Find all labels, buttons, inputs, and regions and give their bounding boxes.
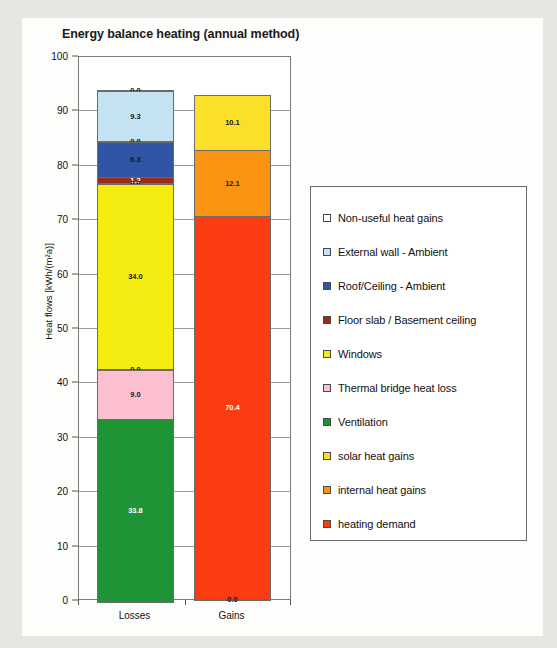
legend-label: solar heat gains [338, 450, 414, 462]
legend-label: Ventilation [338, 416, 388, 428]
y-axis-tick-label: 100 [51, 51, 68, 62]
bar-segment-value: 12.1 [225, 180, 240, 188]
legend-item[interactable]: Non-useful heat gains [323, 201, 526, 235]
y-axis-tick-label: 10 [57, 540, 68, 551]
legend-swatch-icon [323, 214, 331, 222]
bar-segment-value: 9.3 [130, 113, 140, 121]
legend-label: heating demand [338, 518, 416, 530]
legend-item[interactable]: Ventilation [323, 405, 526, 439]
chart-card: Energy balance heating (annual method) 1… [22, 18, 543, 636]
legend-label: Floor slab / Basement ceiling [338, 314, 476, 326]
y-axis-title: Heat flows [kWh/(m²a)] [43, 192, 54, 392]
legend-swatch-icon [323, 248, 331, 256]
x-axis-tick-mark [78, 600, 79, 605]
bar-segment[interactable]: 9.0 [97, 370, 174, 419]
legend-item[interactable]: Roof/Ceiling - Ambient [323, 269, 526, 303]
legend-label: External wall - Ambient [338, 246, 448, 258]
legend-item[interactable]: External wall - Ambient [323, 235, 526, 269]
legend-item[interactable]: solar heat gains [323, 439, 526, 473]
legend-swatch-icon [323, 282, 331, 290]
bar-segment[interactable]: 33.8 [97, 419, 174, 603]
bar-segment[interactable]: 12.1 [194, 150, 271, 216]
y-axis-tick-label: 70 [57, 214, 68, 225]
legend-label: Thermal bridge heat loss [338, 382, 457, 394]
legend-item[interactable]: Thermal bridge heat loss [323, 371, 526, 405]
y-axis-tick-label: 20 [57, 486, 68, 497]
bar-segment-value: 6.3 [130, 156, 140, 164]
bar-segment-value: 9.0 [130, 391, 140, 399]
bar-segment-value: 33.8 [128, 507, 143, 515]
legend-swatch-icon [323, 520, 331, 528]
bar-segment-value: 10.1 [225, 119, 240, 127]
legend-item[interactable]: internal heat gains [323, 473, 526, 507]
chart-legend: Non-useful heat gainsExternal wall - Amb… [310, 186, 527, 541]
legend-swatch-icon [323, 486, 331, 494]
page-title: Energy balance heating (annual method) [62, 27, 299, 41]
y-axis-tick-label: 50 [57, 323, 68, 334]
bar-segment-value: 34.0 [128, 273, 143, 281]
x-axis-category-label: Losses [119, 610, 151, 621]
y-axis-tick-label: 60 [57, 268, 68, 279]
bar-segment-value: 70.4 [225, 404, 240, 412]
legend-item[interactable]: heating demand [323, 507, 526, 541]
y-axis-tick-label: 90 [57, 105, 68, 116]
x-axis-tick-mark [290, 600, 291, 605]
legend-swatch-icon [323, 350, 331, 358]
bar-segment[interactable]: 10.1 [194, 95, 271, 150]
chart-page: Energy balance heating (annual method) 1… [0, 0, 557, 648]
y-axis-tick-label: 0 [62, 595, 68, 606]
bar-gains[interactable]: 10.112.170.40.0 [194, 95, 271, 599]
legend-item[interactable]: Floor slab / Basement ceiling [323, 303, 526, 337]
legend-label: Roof/Ceiling - Ambient [338, 280, 445, 292]
legend-swatch-icon [323, 316, 331, 324]
legend-label: Windows [338, 348, 382, 360]
bar-segment[interactable]: 6.3 [97, 142, 174, 176]
legend-swatch-icon [323, 418, 331, 426]
bar-segment[interactable]: 34.0 [97, 184, 174, 369]
legend-label: internal heat gains [338, 484, 426, 496]
x-axis-category-label: Gains [218, 610, 244, 621]
x-axis-tick-mark [185, 600, 186, 605]
bar-losses[interactable]: 0.09.30.06.31.20.034.00.09.033.8 [97, 90, 174, 599]
bar-segment[interactable]: 70.4 [194, 216, 271, 599]
y-axis-tick-label: 80 [57, 159, 68, 170]
legend-label: Non-useful heat gains [338, 212, 443, 224]
bar-segment[interactable]: 9.3 [97, 91, 174, 142]
legend-swatch-icon [323, 452, 331, 460]
y-axis-tick-label: 40 [57, 377, 68, 388]
legend-item[interactable]: Windows [323, 337, 526, 371]
plot-area: 0.09.30.06.31.20.034.00.09.033.8 10.112.… [78, 56, 291, 600]
x-axis: LossesGains [78, 600, 291, 634]
y-axis-tick-label: 30 [57, 431, 68, 442]
legend-swatch-icon [323, 384, 331, 392]
